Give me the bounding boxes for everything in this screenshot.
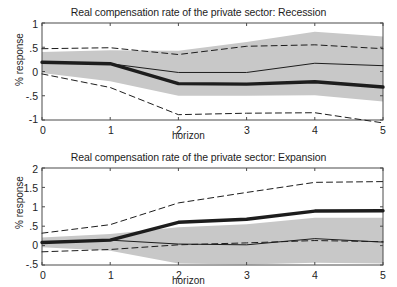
plot-area-expansion (0, 145, 397, 287)
chart-panel-expansion: Real compensation rate of the private se… (0, 145, 397, 287)
plot-area-recession (0, 0, 397, 145)
figure-impulse-responses: Real compensation rate of the private se… (0, 0, 397, 287)
chart-panel-recession: Real compensation rate of the private se… (0, 0, 397, 145)
